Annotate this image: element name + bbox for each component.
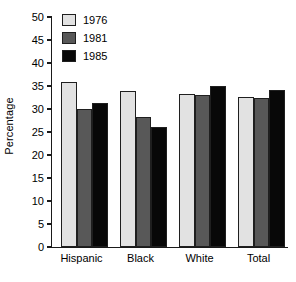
bar[interactable] xyxy=(77,109,93,247)
bar[interactable] xyxy=(269,90,285,247)
legend-item[interactable]: 1985 xyxy=(62,47,107,65)
x-axis-category-label: Hispanic xyxy=(52,252,111,264)
bar[interactable] xyxy=(120,91,136,247)
legend-label: 1985 xyxy=(83,51,107,62)
bar-chart: Percentage 05101520253035404550 Hispanic… xyxy=(0,0,296,282)
legend-label: 1981 xyxy=(83,33,107,44)
x-axis-category-label: White xyxy=(170,252,229,264)
bar[interactable] xyxy=(195,95,211,247)
bar-group xyxy=(179,17,226,247)
bar[interactable] xyxy=(179,94,195,247)
legend-swatch xyxy=(62,50,76,62)
y-axis-tick-label: 45 xyxy=(32,35,47,46)
legend-swatch xyxy=(62,32,76,44)
y-axis-tick-label: 35 xyxy=(32,81,47,92)
legend-label: 1976 xyxy=(83,15,107,26)
bar[interactable] xyxy=(61,82,77,247)
legend-item[interactable]: 1981 xyxy=(62,29,107,47)
bar[interactable] xyxy=(136,117,152,247)
y-axis-tick-label: 5 xyxy=(38,219,47,230)
legend-item[interactable]: 1976 xyxy=(62,11,107,29)
bar-group xyxy=(238,17,285,247)
bar[interactable] xyxy=(151,127,167,247)
bar[interactable] xyxy=(254,98,270,247)
y-axis-tick-label: 0 xyxy=(38,242,47,253)
legend-swatch xyxy=(62,14,76,26)
y-axis-tick-label: 40 xyxy=(32,58,47,69)
y-axis-tick-label: 10 xyxy=(32,196,47,207)
y-axis-tick-label: 50 xyxy=(32,12,47,23)
y-axis-tick-label: 20 xyxy=(32,150,47,161)
y-axis-ticks: 05101520253035404550 xyxy=(0,0,52,282)
bar[interactable] xyxy=(92,103,108,247)
bar[interactable] xyxy=(238,97,254,247)
bar-group xyxy=(120,17,167,247)
bar[interactable] xyxy=(210,86,226,247)
y-axis-tick-label: 25 xyxy=(32,127,47,138)
y-axis-tick-label: 15 xyxy=(32,173,47,184)
x-axis-category-label: Black xyxy=(111,252,170,264)
x-axis-category-label: Total xyxy=(229,252,288,264)
y-axis-tick-label: 30 xyxy=(32,104,47,115)
legend: 197619811985 xyxy=(62,11,107,65)
